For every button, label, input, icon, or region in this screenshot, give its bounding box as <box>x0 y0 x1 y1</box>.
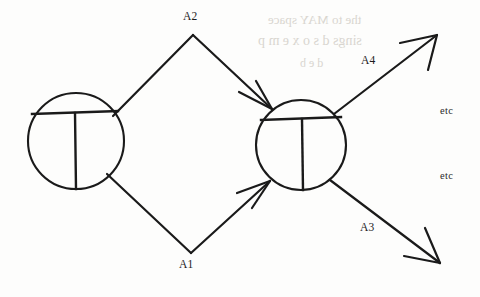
diagram-canvas: the to MAY space sings d s o x e m p d e… <box>0 0 480 297</box>
label-a2: A2 <box>183 10 198 22</box>
label-a1: A1 <box>179 258 194 270</box>
left-circle-node[interactable] <box>28 93 124 189</box>
edge-a3-outgoing[interactable] <box>330 180 440 263</box>
edge-left-to-a1[interactable] <box>107 174 191 253</box>
edge-left-to-a2[interactable] <box>113 35 193 116</box>
diagram-graphics <box>0 0 480 297</box>
label-a4: A4 <box>361 54 376 66</box>
right-node-outline <box>256 100 346 190</box>
right-circle-node[interactable] <box>256 100 346 190</box>
edge-a2-to-right[interactable] <box>193 35 272 109</box>
edge-a1-to-right[interactable] <box>191 181 270 253</box>
edge-a4-outgoing[interactable] <box>334 35 437 114</box>
right-node-stem <box>302 119 303 190</box>
left-node-stem <box>75 113 76 189</box>
label-etc-lower: etc <box>440 170 453 181</box>
label-a3: A3 <box>360 221 375 233</box>
label-etc-upper: etc <box>440 105 453 116</box>
